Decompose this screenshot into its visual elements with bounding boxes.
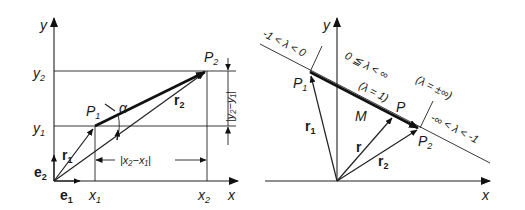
p1-p2-vector [95,72,205,126]
right-diagram: x y P1 P2 P M r1 r r2 -1 < λ < 0 0 ≦ λ <… [260,17,490,203]
r-vector [337,118,392,181]
r1-label: r1 [62,147,72,165]
e1-label: e1 [60,187,73,205]
r-label: r [356,139,362,155]
r2-vector-right [337,130,417,181]
m-label: M [355,108,367,124]
range-right-label: -∞ < λ < -1 [429,111,481,145]
p2-label-right: P2 [418,133,432,151]
r1-vector [54,129,93,181]
p1-label-right: P1 [293,75,307,93]
right-y-label: y [322,17,331,33]
range-middle-label: 0 ≦ λ < ∞ [343,49,390,81]
alpha-label: α [119,100,128,116]
lambda-inf-label: (λ = ±∞) [414,73,455,102]
r2-label: r2 [174,92,184,110]
left-y-label: y [39,17,48,33]
range-left-label: -1 < λ < 0 [261,27,309,59]
boundary-tick-p1 [310,46,322,72]
angle-tick [105,104,115,111]
p-label: P [396,99,406,115]
right-x-label: x [481,187,490,203]
e2-label: e2 [34,164,47,182]
left-diagram: x y e1 e2 x1 x2 y1 y2 r1 r2 P1 P2 α [32,17,238,205]
p2-label: P2 [204,49,218,67]
x2-label: x2 [197,187,210,205]
p1-label: P1 [86,103,100,121]
y2-label: y2 [32,65,45,83]
y1-label: y1 [32,120,45,138]
dim-x-label: |x₂−x₁| [120,154,151,166]
r1-label-right: r1 [305,118,315,136]
boundary-tick-p2 [420,101,433,128]
dim-y-label: |y₂−y₁| [224,91,236,122]
left-x-label: x [227,187,236,203]
x1-label: x1 [88,187,101,205]
r2-label-right: r2 [378,153,388,171]
vector-geometry-diagram: x y e1 e2 x1 x2 y1 y2 r1 r2 P1 P2 α [0,0,525,210]
